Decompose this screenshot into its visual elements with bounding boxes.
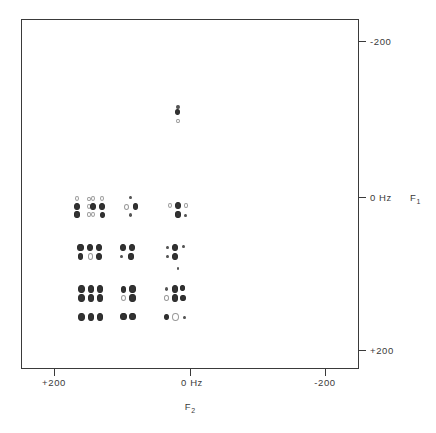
- y-tick-mark-middle: [359, 197, 366, 198]
- plot-frame: [21, 19, 359, 369]
- y-tick-label-middle-text: 0 Hz: [370, 192, 392, 203]
- x-axis-title-subscript: 2: [191, 407, 195, 414]
- y-axis-title-subscript: 1: [416, 198, 420, 205]
- y-tick-label-middle: 0 Hz: [370, 192, 392, 203]
- x-tick-mark-right: [325, 369, 326, 376]
- y-tick-label-top: -200: [370, 36, 391, 47]
- y-tick-mark-bottom: [359, 350, 366, 351]
- y-tick-mark-top: [359, 41, 366, 42]
- nmr-spectrum-figure: -200 0 Hz +200 F1 +200 0 Hz -200 F2: [0, 0, 436, 433]
- x-axis-title: F2: [185, 401, 195, 414]
- y-tick-label-bottom: +200: [370, 345, 394, 356]
- x-tick-mark-left: [54, 369, 55, 376]
- y-axis-title: F1: [410, 192, 420, 205]
- x-tick-label-right: -200: [314, 377, 335, 388]
- x-tick-mark-center: [190, 369, 191, 376]
- x-tick-label-left: +200: [42, 377, 66, 388]
- x-tick-label-center: 0 Hz: [181, 377, 203, 388]
